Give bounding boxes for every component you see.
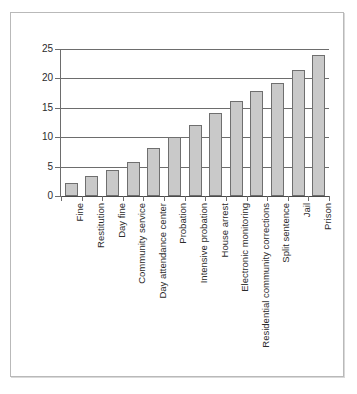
x-axis-tick [288,196,289,201]
y-axis-tick-label: 0 [13,191,53,201]
x-axis-category-label: Day fine [117,203,126,238]
y-axis-tick-label: 15 [13,103,53,113]
bar [189,125,202,196]
x-axis-ticks [61,196,329,202]
x-axis-tick [61,196,62,201]
bar [65,183,78,196]
y-axis-tick-label: 25 [13,44,53,54]
bar [168,137,181,196]
x-axis-category-label: Residential community corrections [261,203,270,348]
x-axis-category-label: Community service [137,203,146,284]
bar [85,176,98,196]
bar [292,70,305,196]
bar [147,148,160,196]
x-axis-category-label: Day attendance center [158,203,167,299]
x-axis-tick [205,196,206,201]
bar [312,55,325,196]
x-axis-tick [123,196,124,201]
x-axis-category-label: Restitution [96,203,105,248]
x-axis-tick [185,196,186,201]
chart-frame: 0510152025 FineRestitutionDay fineCommun… [10,12,344,377]
y-axis-labels: 0510152025 [11,13,53,394]
bar [271,83,284,196]
bar-series [61,49,329,196]
y-axis-tick-label: 5 [13,162,53,172]
x-axis-tick [247,196,248,201]
chart-figure: 0510152025 FineRestitutionDay fineCommun… [0,0,357,394]
bar [230,101,243,196]
x-axis-tick [164,196,165,201]
x-axis-tick [102,196,103,201]
x-axis-tick [308,196,309,201]
x-axis-category-label: Prison [323,203,332,230]
x-axis-category-label: Split sentence [281,203,290,263]
y-axis-tick-label: 10 [13,132,53,142]
x-axis-tick [82,196,83,201]
x-axis-category-label: Electronic monitoring [240,203,249,292]
x-axis-tick [329,196,330,201]
bar [106,170,119,196]
bar [127,162,140,196]
bar [250,91,263,196]
x-axis-category-label: House arrest [220,203,229,257]
x-axis-category-label: Fine [75,203,84,221]
x-axis-category-label: Intensive probation [199,203,208,283]
x-axis-category-label: Jail [302,203,311,217]
x-axis-category-label: Probation [178,203,187,244]
bar [209,113,222,196]
x-axis-tick [267,196,268,201]
x-axis-tick [226,196,227,201]
x-axis-labels: FineRestitutionDay fineCommunity service… [61,203,329,363]
x-axis-tick [143,196,144,201]
y-axis-tick-label: 20 [13,73,53,83]
